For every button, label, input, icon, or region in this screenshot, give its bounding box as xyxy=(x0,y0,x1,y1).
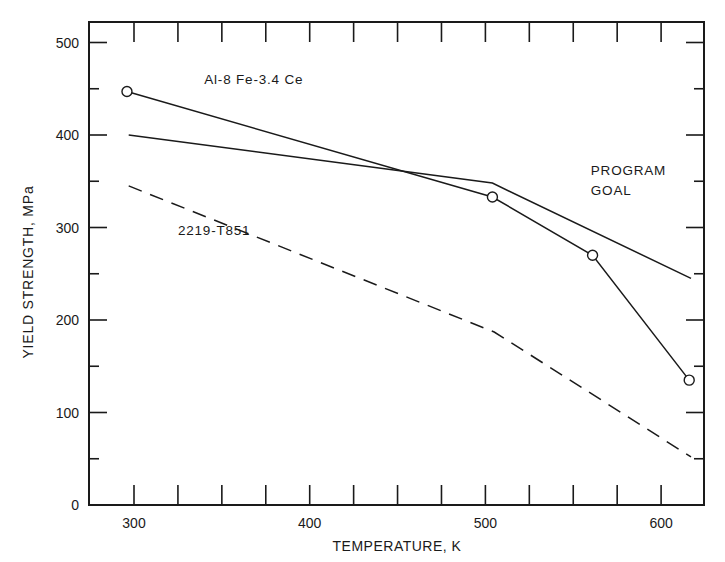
y-axis-label: YIELD STRENGTH, MPa xyxy=(20,185,36,358)
annotation-label: GOAL xyxy=(591,183,632,198)
data-point-marker xyxy=(684,375,694,385)
y-tick-label: 0 xyxy=(71,497,79,513)
yield-strength-chart: 3004005006000100200300400500 Al-8 Fe-3.4… xyxy=(0,0,725,562)
x-tick-label: 400 xyxy=(298,515,322,531)
x-tick-label: 600 xyxy=(649,515,673,531)
axis-tick-labels: 3004005006000100200300400500 xyxy=(56,35,673,532)
y-tick-label: 200 xyxy=(56,312,80,328)
series-line xyxy=(129,135,691,278)
annotation-label: PROGRAM xyxy=(591,163,666,178)
y-tick-label: 500 xyxy=(56,35,80,51)
annotation-label: Al-8 Fe-3.4 Ce xyxy=(204,72,303,87)
annotation-label: 2219-T851 xyxy=(178,223,251,238)
data-series xyxy=(122,87,694,457)
x-tick-label: 300 xyxy=(122,515,146,531)
y-tick-label: 400 xyxy=(56,127,80,143)
plot-frame xyxy=(89,22,704,505)
x-axis-label: TEMPERATURE, K xyxy=(333,538,462,554)
y-tick-label: 300 xyxy=(56,220,80,236)
plot-border xyxy=(89,22,704,505)
x-tick-label: 500 xyxy=(474,515,498,531)
axis-ticks xyxy=(89,22,704,505)
annotations: Al-8 Fe-3.4 CePROGRAMGOAL2219-T851 xyxy=(178,72,666,238)
data-point-marker xyxy=(588,250,598,260)
data-point-marker xyxy=(122,87,132,97)
y-tick-label: 100 xyxy=(56,405,80,421)
data-point-marker xyxy=(487,192,497,202)
